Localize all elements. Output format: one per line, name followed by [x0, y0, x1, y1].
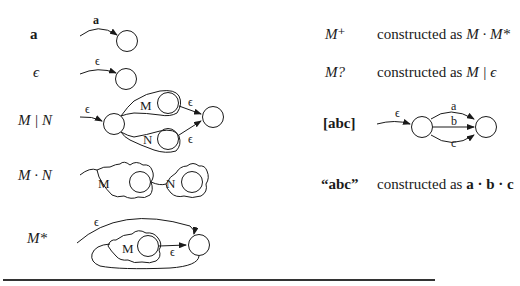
- nfa-symbol-a: [80, 29, 138, 52]
- state-circle: [117, 31, 138, 52]
- edge-label: a: [93, 13, 99, 27]
- sub-machine-label: M: [140, 98, 152, 113]
- sub-machine-label: M: [122, 241, 134, 256]
- nfa-diagrams: a ϵ ϵ M N ϵ ϵ M N ϵ M ϵ ϵ a b c: [0, 0, 520, 286]
- edge-label: a: [451, 99, 457, 113]
- edge-label: ϵ: [85, 102, 90, 116]
- state-circle: [104, 114, 125, 135]
- sub-machine-label: M: [98, 176, 110, 191]
- arrow-icon: [80, 70, 116, 74]
- edge-label: b: [451, 114, 457, 128]
- edge-label: ϵ: [395, 106, 400, 120]
- horizontal-rule: [3, 279, 435, 281]
- state-circle: [203, 107, 224, 128]
- arrow-icon: [377, 122, 410, 125]
- edge-label: ϵ: [94, 215, 99, 229]
- sub-machine-label: N: [143, 132, 153, 147]
- state-circle: [189, 235, 210, 256]
- arrow-icon: [80, 117, 102, 121]
- arrow-icon: [80, 29, 117, 36]
- edge-label: ϵ: [170, 245, 175, 259]
- state-circle: [476, 117, 497, 138]
- edge-label: c: [451, 136, 456, 150]
- state-circle: [116, 69, 137, 90]
- edge-label: ϵ: [188, 95, 193, 109]
- edge-label: ϵ: [95, 54, 100, 68]
- edge-label: ϵ: [188, 132, 193, 146]
- nfa-epsilon: [80, 69, 137, 90]
- state-circle: [412, 117, 433, 138]
- sub-machine-label: N: [166, 176, 176, 191]
